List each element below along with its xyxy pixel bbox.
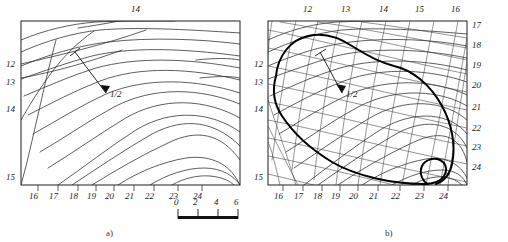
panel-b-gradient-label: 1/2 [346, 89, 358, 99]
panel-b-left-label-2: 14 [254, 104, 264, 114]
panel-b-top-label-0: 12 [303, 4, 313, 14]
panel-b-right-label-3: 20 [472, 80, 482, 90]
panel-b-bottom-label-3: 19 [331, 191, 341, 201]
scale-bar-tick-label-0: 0 [174, 197, 179, 207]
panel-a-bottom-label-6: 22 [145, 191, 155, 201]
figure-root: 1/2 16 17 18 19 20 21 22 23 24 12 13 14 … [0, 0, 508, 242]
panel-b-bottom-label-2: 18 [313, 191, 323, 201]
panel-b-characteristic-curve [274, 35, 454, 184]
panel-b-left-label-1: 13 [254, 77, 264, 87]
panel-b-bottom-label-8: 24 [439, 191, 449, 201]
panel-a-left-label-3: 15 [6, 172, 16, 182]
panel-b-right-label-0: 17 [472, 20, 482, 30]
panel-b-right-label-7: 24 [472, 162, 482, 172]
panel-a-bottom-label-2: 18 [69, 191, 79, 201]
panel-a-frame [21, 21, 240, 185]
panel-b-top-label-3: 15 [415, 4, 425, 14]
panel-b-left-label-3: 15 [254, 172, 264, 182]
panel-b-bottom-label-5: 21 [369, 191, 378, 201]
panel-b-right-label-2: 19 [472, 60, 482, 70]
panel-a-bottom-label-0: 16 [29, 191, 39, 201]
panel-b-right-label-4: 21 [472, 102, 481, 112]
panel-a-gradient-annotation [70, 48, 110, 93]
panel-a-bottom-label-5: 21 [125, 191, 134, 201]
panel-b-bottom-label-1: 17 [294, 191, 304, 201]
panel-b-bottom-label-7: 23 [415, 191, 425, 201]
scale-bar-tick-label-3: 6 [234, 197, 239, 207]
panel-b-contours [268, 21, 467, 185]
scale-bar-fill [178, 216, 238, 219]
figure-svg: 1/2 16 17 18 19 20 21 22 23 24 12 13 14 … [0, 0, 508, 242]
panel-a-bottom-label-1: 17 [49, 191, 59, 201]
panel-a-gradient-label: 1/2 [110, 89, 122, 99]
panel-a-left-label-0: 12 [6, 59, 16, 69]
panel-a-contours [21, 12, 240, 185]
panel-b-top-label-4: 16 [451, 4, 461, 14]
panel-a-bottom-label-3: 19 [87, 191, 97, 201]
panel-a-caption: a) [106, 228, 113, 238]
scale-bar-tick-label-1: 2 [193, 197, 198, 207]
panel-b-left-label-0: 12 [254, 59, 264, 69]
panel-b-caption: b) [385, 228, 393, 238]
panel-a-bottom-label-4: 20 [105, 191, 115, 201]
panel-a-top-label-0: 14 [131, 4, 141, 14]
panel-b-bottom-label-0: 16 [274, 191, 284, 201]
panel-a: 1/2 16 17 18 19 20 21 22 23 24 12 13 14 … [6, 4, 240, 201]
panel-b-mesh [267, 21, 467, 202]
panel-b-bottom-label-6: 22 [391, 191, 401, 201]
panel-b-bottom-label-4: 20 [349, 191, 359, 201]
panel-b-right-label-6: 23 [472, 142, 482, 152]
panel-b-top-label-1: 13 [341, 4, 351, 14]
panel-a-left-label-1: 13 [6, 77, 16, 87]
panel-b-right-label-1: 18 [472, 40, 482, 50]
panel-a-left-label-2: 14 [6, 104, 16, 114]
panel-b: 1/2 16 17 18 19 20 21 22 23 24 12 13 14 … [254, 4, 482, 202]
panel-b-frame [268, 21, 467, 185]
panel-b-right-label-5: 22 [472, 123, 482, 133]
panel-b-top-label-2: 14 [379, 4, 389, 14]
scale-bar-tick-label-2: 4 [214, 197, 219, 207]
scale-bar: 0 2 4 6 [174, 197, 239, 219]
